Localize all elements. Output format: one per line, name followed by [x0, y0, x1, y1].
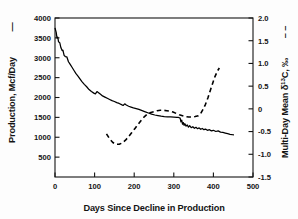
tick-label: 4000	[34, 14, 51, 23]
tick-label: 2.0	[258, 14, 269, 23]
right-axis-title-main: Multi-Day Mean δ	[280, 84, 290, 158]
tick-label: 1000	[34, 133, 51, 142]
left-axis-title: Production, Mcf/Day	[7, 56, 17, 143]
right-axis-title-tail: C, ‰	[280, 58, 290, 78]
tick-label: 500	[38, 153, 51, 162]
tick-label: 100	[88, 182, 101, 191]
tick-label: 0	[258, 105, 262, 114]
tick-label: 0.5	[258, 82, 269, 91]
tick-label: 2500	[34, 73, 51, 82]
tick-label: -0.5	[258, 127, 272, 136]
chart-figure: 5001000150020002500300035004000 -1.5-1.0…	[0, 0, 298, 219]
tick-label: -1.0	[258, 150, 271, 159]
tick-label: 1500	[34, 113, 51, 122]
right-axis-legend-marker: – –	[280, 26, 290, 38]
tick-label: 400	[207, 182, 220, 191]
tick-label: -1.5	[258, 173, 272, 182]
tick-label: 500	[247, 182, 260, 191]
chart-canvas: 5001000150020002500300035004000 -1.5-1.0…	[0, 0, 298, 219]
tick-label: 2000	[34, 93, 51, 102]
tick-label: 200	[128, 182, 141, 191]
tick-label: 3500	[34, 34, 51, 43]
tick-label: 1.5	[258, 37, 269, 46]
x-axis-title: Days Since Decline in Production	[83, 203, 225, 213]
tick-label: 3000	[34, 54, 51, 63]
plot-area	[55, 18, 253, 177]
tick-label: 0	[53, 182, 57, 191]
tick-label: 1.0	[258, 59, 269, 68]
left-axis-legend-marker: —	[7, 22, 17, 32]
tick-label: 300	[167, 182, 180, 191]
right-axis-title: Multi-Day Mean δ13C, ‰	[279, 58, 290, 158]
